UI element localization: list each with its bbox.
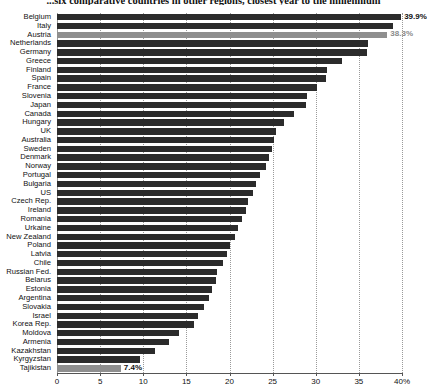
bar-row: [57, 145, 402, 154]
x-tick-label-10: 10: [139, 377, 148, 386]
bar-slovenia: [57, 93, 307, 99]
bar-row: [57, 215, 402, 224]
bar-romania: [57, 216, 242, 222]
bar-row: [57, 48, 402, 57]
bar-belgium: [57, 14, 401, 20]
bar-sweden: [57, 146, 272, 152]
bar-row: [57, 74, 402, 83]
bar-row: [57, 127, 402, 136]
bar-row: [57, 57, 402, 66]
bar-row: [57, 355, 402, 364]
bar-france: [57, 84, 317, 90]
bar-us: [57, 190, 253, 196]
bar-russian-fed: [57, 269, 217, 275]
bar-row: [57, 153, 402, 162]
bar-row: [57, 101, 402, 110]
bar-armenia: [57, 339, 169, 345]
bar-row: [57, 241, 402, 250]
bar-latvia: [57, 251, 227, 257]
x-tick-mark-10: [143, 373, 144, 376]
x-axis-ticks: 0510152025303540%: [57, 373, 403, 389]
bar-denmark: [57, 154, 269, 160]
bar-row: [57, 224, 402, 233]
bar-value-label: 38.3%: [390, 29, 413, 38]
bar-germany: [57, 49, 367, 55]
bar-row: [57, 276, 402, 285]
bar-australia: [57, 137, 274, 143]
bar-row: [57, 66, 402, 75]
bar-row: [57, 136, 402, 145]
bar-urkaine: [57, 225, 238, 231]
bar-row: [57, 171, 402, 180]
x-tick-label-5: 5: [98, 377, 102, 386]
bar-row: [57, 312, 402, 321]
bar-portugal: [57, 172, 260, 178]
bar-row: [57, 118, 402, 127]
bar-row: [57, 189, 402, 198]
bar-argentina: [57, 295, 209, 301]
bar-value-label: 39.9%: [404, 12, 427, 21]
bar-ireland: [57, 207, 246, 213]
bar-poland: [57, 242, 230, 248]
category-label-tajikistan: Tajikistan: [0, 364, 51, 373]
gridline-40: [402, 13, 403, 373]
x-tick-mark-20: [230, 373, 231, 376]
bar-row: [57, 329, 402, 338]
bar-belarus: [57, 277, 216, 283]
x-tick-mark-25: [273, 373, 274, 376]
bar-row: [57, 22, 402, 31]
x-tick-label-25: 25: [268, 377, 277, 386]
bar-row: [57, 197, 402, 206]
bar-finland: [57, 67, 327, 73]
bar-row: [57, 83, 402, 92]
bar-row: [57, 268, 402, 277]
bar-new-zealand: [57, 234, 235, 240]
bar-netherlands: [57, 40, 368, 46]
bar-row: [57, 39, 402, 48]
x-tick-mark-5: [100, 373, 101, 376]
bar-row: [57, 206, 402, 215]
bar-japan: [57, 102, 306, 108]
bar-chart: ...six comparative countries in other re…: [0, 0, 427, 391]
bar-chile: [57, 260, 223, 266]
x-tick-label-40: 40%: [394, 377, 410, 386]
bar-row: [57, 285, 402, 294]
bar-bulgaria: [57, 181, 256, 187]
bar-row: 39.9%: [57, 13, 402, 22]
x-tick-mark-15: [186, 373, 187, 376]
x-tick-label-30: 30: [311, 377, 320, 386]
x-tick-mark-35: [359, 373, 360, 376]
bar-row: [57, 347, 402, 356]
bar-row: 7.4%: [57, 364, 402, 373]
bar-series: 39.9%38.3%7.4%: [57, 13, 402, 373]
plot-area: 39.9%38.3%7.4%: [57, 13, 402, 373]
bar-row: [57, 259, 402, 268]
bar-greece: [57, 58, 342, 64]
bar-czech-rep: [57, 198, 248, 204]
bar-norway: [57, 163, 266, 169]
bar-moldova: [57, 330, 179, 336]
x-tick-label-15: 15: [182, 377, 191, 386]
x-tick-label-0: 0: [55, 377, 59, 386]
bar-row: [57, 250, 402, 259]
x-tick-mark-40: [402, 373, 403, 376]
bar-row: [57, 180, 402, 189]
bar-row: [57, 338, 402, 347]
bar-canada: [57, 111, 294, 117]
bar-hungary: [57, 119, 284, 125]
bar-row: [57, 233, 402, 242]
bar-value-label: 7.4%: [124, 363, 142, 372]
page-title: ...six comparative countries in other re…: [0, 0, 427, 5]
x-tick-label-20: 20: [225, 377, 234, 386]
bar-row: 38.3%: [57, 31, 402, 40]
bar-row: [57, 303, 402, 312]
bar-row: [57, 294, 402, 303]
bar-row: [57, 92, 402, 101]
bar-uk: [57, 128, 276, 134]
bar-austria: [57, 32, 387, 38]
bar-estonia: [57, 286, 212, 292]
bar-korea-rep: [57, 321, 194, 327]
bar-italy: [57, 23, 393, 29]
bar-israel: [57, 313, 198, 319]
x-tick-label-35: 35: [354, 377, 363, 386]
